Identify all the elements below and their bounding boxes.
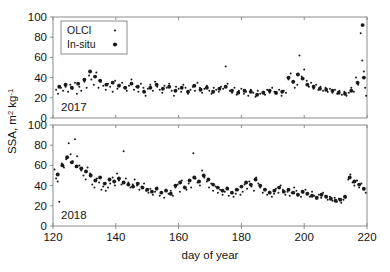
data-point: [293, 187, 295, 189]
data-point: [334, 197, 336, 199]
data-point: [362, 187, 366, 191]
data-point: [78, 86, 80, 88]
data-point: [263, 188, 267, 192]
data-point: [320, 193, 324, 197]
data-point: [192, 84, 196, 88]
data-point: [268, 89, 272, 93]
data-point: [82, 175, 84, 177]
data-point: [304, 189, 306, 191]
data-point: [155, 187, 159, 191]
data-point: [230, 191, 234, 195]
data-point: [154, 81, 156, 83]
data-point: [137, 91, 139, 93]
data-point: [230, 89, 234, 93]
data-point: [178, 88, 180, 90]
data-point: [318, 87, 322, 91]
data-point: [98, 182, 100, 184]
x-tick-label: 220: [357, 231, 376, 243]
data-point: [95, 72, 97, 74]
data-point: [91, 184, 93, 186]
legend-marker-large-dot: [113, 42, 117, 46]
data-point: [74, 82, 76, 84]
data-point: [112, 91, 114, 93]
data-point: [205, 86, 209, 90]
data-point: [76, 82, 80, 86]
data-point: [343, 92, 347, 96]
data-point: [362, 76, 366, 80]
data-point: [104, 83, 108, 87]
data-point: [105, 190, 107, 192]
data-point: [285, 92, 287, 94]
panel-year-label: 2018: [61, 209, 87, 221]
data-point: [163, 85, 165, 87]
data-point: [243, 93, 245, 95]
data-point: [244, 181, 248, 185]
data-point: [303, 69, 305, 71]
data-point: [298, 54, 300, 56]
x-tick-label: 160: [169, 231, 188, 243]
data-point: [76, 155, 78, 157]
data-point: [239, 194, 241, 196]
data-point: [122, 181, 126, 185]
data-point: [84, 170, 88, 174]
x-tick-label: 180: [232, 231, 251, 243]
data-point: [294, 87, 296, 89]
data-point: [364, 87, 366, 89]
data-point: [282, 190, 286, 194]
data-point: [173, 95, 175, 97]
data-point: [126, 90, 128, 92]
y-tick-label: 60: [34, 159, 47, 171]
y-tick-label: 100: [28, 119, 47, 131]
data-point: [145, 95, 147, 97]
ssa-scatter-figure: 0204060801002017020406080100120140160180…: [0, 0, 390, 272]
data-point: [188, 179, 192, 183]
legend-label-in-situ: In-situ: [67, 38, 96, 50]
data-point: [90, 79, 92, 81]
data-point: [163, 197, 165, 199]
data-point: [112, 177, 114, 179]
data-point: [60, 163, 64, 167]
data-point: [116, 88, 118, 90]
data-point: [240, 88, 242, 90]
data-point: [114, 80, 116, 82]
data-point: [233, 87, 235, 89]
data-point: [136, 182, 140, 186]
data-point: [199, 185, 201, 187]
data-point: [57, 85, 61, 89]
data-point: [355, 77, 357, 79]
data-point: [68, 142, 70, 144]
data-point: [183, 186, 187, 190]
data-point: [98, 79, 102, 83]
data-point: [180, 91, 182, 93]
data-point: [236, 91, 240, 95]
data-point: [249, 183, 253, 187]
data-point: [338, 198, 342, 202]
data-point: [320, 197, 322, 199]
data-point: [108, 178, 112, 182]
data-point: [201, 92, 203, 94]
data-point: [125, 178, 127, 180]
data-point: [213, 87, 215, 89]
data-point: [331, 89, 335, 93]
data-point: [185, 87, 187, 89]
data-point: [324, 88, 328, 92]
data-point: [188, 183, 190, 185]
data-point: [221, 189, 225, 193]
data-point: [131, 79, 133, 81]
data-point: [170, 190, 172, 192]
data-point: [224, 85, 228, 89]
data-point: [54, 168, 56, 170]
data-point: [272, 189, 276, 193]
data-point: [296, 193, 300, 197]
data-point: [93, 84, 95, 86]
data-point: [143, 183, 145, 185]
data-point: [103, 182, 107, 186]
panel-year-label: 2017: [61, 101, 87, 113]
data-point: [130, 82, 134, 86]
data-point: [342, 199, 344, 201]
y-tick-label: 40: [34, 180, 47, 192]
data-point: [161, 87, 165, 91]
data-point: [255, 93, 259, 97]
legend-marker-small-dot: [114, 29, 116, 31]
data-point: [222, 194, 224, 196]
